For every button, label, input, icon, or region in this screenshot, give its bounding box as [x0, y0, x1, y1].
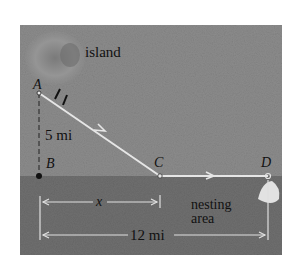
variable-x-label: x: [95, 194, 103, 209]
point-c-label: C: [154, 155, 164, 170]
point-d-label: D: [260, 155, 271, 170]
bird-flight-diagram: island A 5 mi B C D x nesting area 12 mi: [0, 0, 296, 263]
water-region: [20, 176, 282, 255]
nesting-label-line1: nesting: [191, 197, 231, 212]
point-a-label: A: [32, 77, 42, 92]
distance-ab-label: 5 mi: [45, 127, 72, 143]
nesting-label-line2: area: [191, 211, 215, 226]
distance-bd-label: 12 mi: [130, 227, 165, 243]
point-b-label: B: [46, 156, 55, 171]
point-c-marker: [158, 174, 162, 178]
island-label: island: [85, 44, 121, 60]
point-b-marker: [36, 173, 42, 179]
